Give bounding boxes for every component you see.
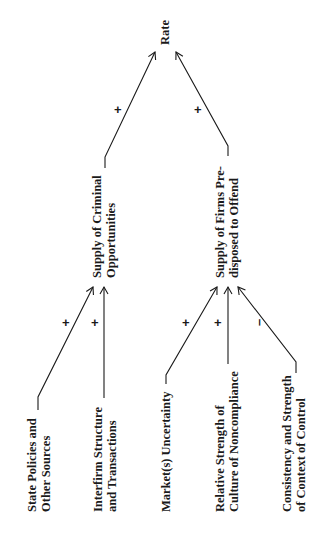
node-interfirm-line2: and Transactions <box>105 420 119 512</box>
node-supply-firms-predisposed: Supply of Firms Pre- disposed to Offend <box>213 166 241 278</box>
edge-firms-to-rate <box>176 52 228 156</box>
causal-diagram: Rate Supply of Criminal Opportunities Su… <box>0 0 326 536</box>
edge-market-to-firms <box>166 287 217 384</box>
node-state-policies: State Policies and Other Sources <box>25 418 53 512</box>
node-culture-line1: Relative Strength of <box>213 404 227 512</box>
node-context-of-control: Consistency and Strength of Context of C… <box>280 375 308 512</box>
sign-control: – <box>251 319 266 326</box>
node-culture-noncompliance: Relative Strength of Culture of Noncompl… <box>213 371 241 512</box>
node-supply-firms-line2: disposed to Offend <box>227 178 241 278</box>
edge-criminal-to-rate <box>105 52 155 168</box>
node-market-uncertainty: Market(s) Uncertainty <box>159 391 173 512</box>
node-supply-criminal-line1: Supply of Criminal <box>90 175 104 278</box>
node-culture-line2: Culture of Noncompliance <box>227 371 241 512</box>
node-supply-criminal-line2: Opportunities <box>104 203 118 278</box>
sign-interfirm: + <box>91 315 99 330</box>
node-supply-firms-line1: Supply of Firms Pre- <box>213 166 227 278</box>
node-rate-label: Rate <box>158 20 172 45</box>
node-interfirm-line1: Interfirm Structure <box>91 407 105 512</box>
sign-culture: + <box>214 315 222 330</box>
node-control-line1: Consistency and Strength <box>280 375 294 512</box>
node-market-line1: Market(s) Uncertainty <box>159 391 173 512</box>
sign-market: + <box>182 315 190 330</box>
node-state-policies-line2: Other Sources <box>39 436 53 512</box>
edge-control-to-firms <box>238 287 296 373</box>
sign-firms-to-rate: + <box>194 102 202 117</box>
node-interfirm-structure: Interfirm Structure and Transactions <box>91 407 119 512</box>
node-state-policies-line1: State Policies and <box>25 418 39 512</box>
sign-criminal-to-rate: + <box>114 102 122 117</box>
node-supply-criminal-opportunities: Supply of Criminal Opportunities <box>90 175 118 278</box>
node-rate: Rate <box>158 20 172 45</box>
sign-state-policies: + <box>62 315 70 330</box>
node-control-line2: of Context of Control <box>294 397 308 512</box>
edge-state-policies-to-criminal <box>38 287 93 410</box>
